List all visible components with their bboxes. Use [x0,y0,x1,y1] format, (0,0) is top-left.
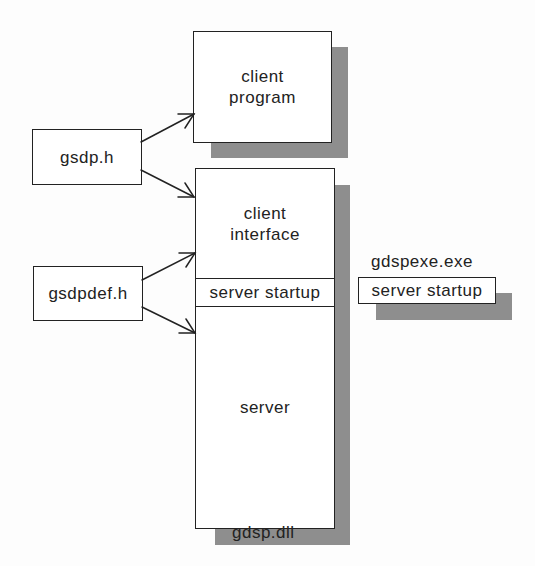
arrow-gsdp-to-client-program [141,114,194,142]
arrow-gsdp-to-client-interface [141,170,194,197]
arrow-gsdpdef-to-client-interface [142,253,195,280]
arrow-gsdpdef-to-server [142,307,195,333]
arrows-layer [0,0,535,566]
